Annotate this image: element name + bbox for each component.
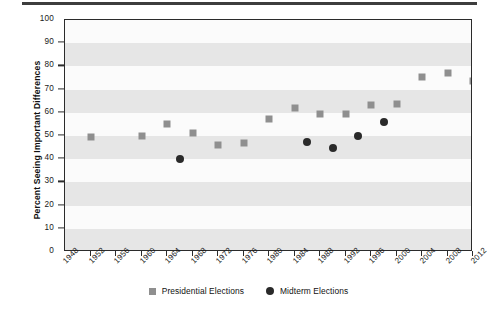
x-axis-tick-label: 1992 [342, 246, 362, 266]
legend-label-midterm: Midterm Elections [280, 286, 348, 296]
x-axis-tick-label: 2004 [418, 246, 438, 266]
x-axis-tick-label: 1948 [61, 246, 81, 266]
legend-square-marker-icon [149, 288, 156, 295]
x-axis-tick-label: 1960 [138, 246, 158, 266]
legend-label-presidential: Presidential Elections [162, 286, 244, 296]
x-axis-tick-label: 1988 [316, 246, 336, 266]
x-axis-tick-label: 1964 [163, 246, 183, 266]
x-axis-tick-label: 1972 [214, 246, 234, 266]
chart-legend: Presidential Elections Midterm Elections [0, 286, 497, 296]
x-axis-tick-label: 1996 [367, 246, 387, 266]
x-axis-tick-label: 2000 [393, 246, 413, 266]
x-axis-tick-label: 1968 [189, 246, 209, 266]
x-axis-tick-label: 1984 [291, 246, 311, 266]
x-axis-tick-label: 2012 [469, 246, 489, 266]
x-axis-tick-label: 1980 [265, 246, 285, 266]
x-axis-tick-label: 1956 [112, 246, 132, 266]
legend-item-presidential: Presidential Elections [149, 286, 244, 296]
scatter-chart-figure: Percent Seeing Important Differences 010… [0, 0, 497, 319]
x-axis-tick-label: 2008 [444, 246, 464, 266]
legend-circle-marker-icon [266, 287, 274, 295]
legend-item-midterm: Midterm Elections [266, 286, 348, 296]
x-axis-tick-label: 1952 [87, 246, 107, 266]
x-axis-tick-label: 1976 [240, 246, 260, 266]
x-axis-ticks: 1948195219561960196419681972197619801984… [0, 0, 497, 300]
